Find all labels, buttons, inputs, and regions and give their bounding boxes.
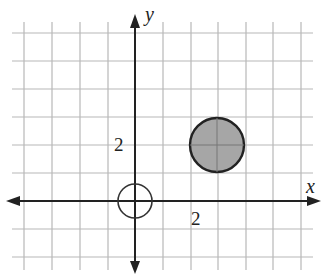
y-axis-up-arrow	[130, 14, 140, 28]
coordinate-plane-figure: y x 2 2	[0, 0, 326, 278]
graph-canvas	[0, 0, 326, 278]
y-tick-label-2: 2	[114, 134, 124, 156]
x-axis-label: x	[306, 175, 315, 198]
y-axis-down-arrow	[130, 261, 140, 274]
x-tick-label-2: 2	[191, 208, 201, 230]
y-axis-label: y	[145, 3, 154, 26]
x-axis-left-arrow	[6, 196, 20, 206]
grid-lines	[12, 22, 313, 270]
